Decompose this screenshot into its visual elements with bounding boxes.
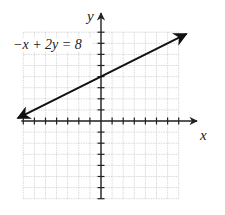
coordinate-plane: −x + 2y = 8 y x <box>0 0 225 215</box>
y-axis-label: y <box>85 8 94 24</box>
equation-label: −x + 2y = 8 <box>13 37 82 52</box>
x-axis-label: x <box>199 127 207 143</box>
